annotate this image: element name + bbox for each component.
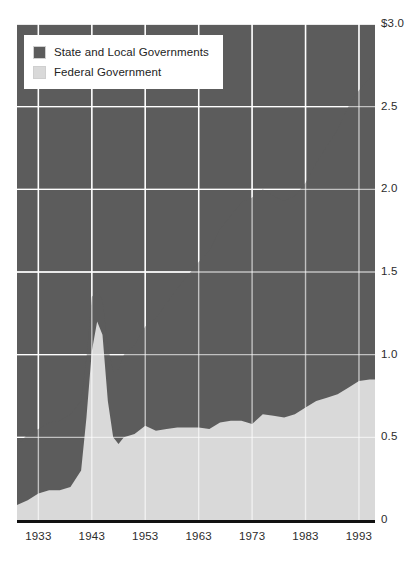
chart-legend: State and Local Governments Federal Gove…	[24, 35, 223, 89]
y-axis-tick-label: 2.5	[381, 100, 398, 112]
x-axis-baseline	[17, 520, 375, 523]
y-axis-tick-label: $3.0	[381, 17, 404, 29]
legend-item-label: State and Local Governments	[54, 46, 209, 58]
y-axis-tick-label: 2.0	[381, 182, 398, 194]
x-axis-tick-label: 1963	[169, 530, 229, 542]
y-axis-tick-label: 0	[381, 513, 388, 525]
x-axis-tick-label: 1953	[115, 530, 175, 542]
legend-item: Federal Government	[33, 62, 209, 82]
x-axis-tick-label: 1993	[329, 530, 389, 542]
y-axis-tick-label: 0.5	[381, 430, 398, 442]
x-axis-tick-label: 1933	[8, 530, 68, 542]
stacked-area-plot	[17, 24, 375, 520]
x-axis-tick-label: 1983	[276, 530, 336, 542]
legend-swatch-icon	[33, 66, 46, 79]
legend-item: State and Local Governments	[33, 42, 209, 62]
x-axis-tick-label: 1973	[222, 530, 282, 542]
plot-area	[17, 24, 375, 520]
x-axis-tick-label: 1943	[62, 530, 122, 542]
legend-swatch-icon	[33, 46, 46, 59]
legend-item-label: Federal Government	[54, 66, 161, 78]
top-caption	[10, 0, 150, 9]
chart-root: 00.51.01.52.02.5$3.0 1933194319531963197…	[0, 0, 419, 570]
y-axis-tick-label: 1.5	[381, 265, 398, 277]
y-axis-tick-label: 1.0	[381, 348, 398, 360]
